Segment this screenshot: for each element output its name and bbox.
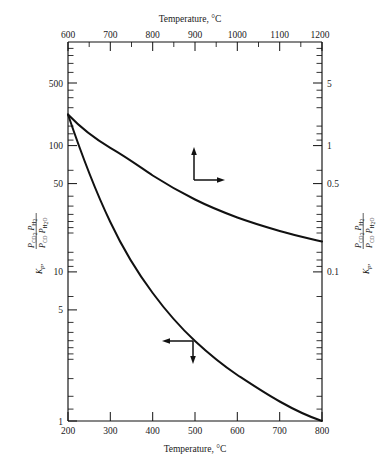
right-tick-label-0.1: 0.1 (327, 267, 339, 277)
bottom-axis-ticks (68, 412, 322, 421)
right-axis-kp-symbol: Kp, (362, 264, 372, 275)
curve-high-temperature-branch (68, 115, 322, 242)
right-tick-label-5: 5 (327, 79, 332, 89)
curve-low-temperature-branch (68, 115, 322, 422)
chart-container: Temperature, °C Temperature, °C 600 700 … (0, 0, 380, 463)
arrow-left-icon (162, 338, 170, 344)
left-axis-kp-symbol: Kp, (35, 264, 45, 275)
left-axis-numerator: PCO2 PH2 (27, 219, 38, 249)
left-tick-label-50: 50 (54, 179, 64, 189)
bottom-tick-label-600: 600 (230, 426, 245, 436)
left-axis-title: Kp, PCO2 PH2 PCO PH2O (27, 213, 49, 275)
bottom-tick-label-700: 700 (273, 426, 288, 436)
top-axis-title: Temperature, °C (159, 14, 222, 24)
right-tick-label-1: 1 (327, 141, 332, 151)
left-axis-ticks (68, 48, 77, 421)
top-tick-label-1200: 1200 (311, 30, 330, 40)
right-tick-label-0.5: 0.5 (327, 179, 339, 189)
chart-svg: Temperature, °C Temperature, °C 600 700 … (0, 0, 380, 463)
bottom-tick-label-400: 400 (146, 426, 161, 436)
upper-curve-axis-pointer (191, 147, 225, 183)
right-axis-ticks (313, 48, 322, 409)
bottom-tick-label-500: 500 (188, 426, 203, 436)
left-axis-tick-labels: 500 100 50 10 5 1 (49, 79, 64, 427)
top-tick-label-700: 700 (103, 30, 118, 40)
bottom-tick-label-300: 300 (103, 426, 118, 436)
lower-curve-axis-pointer (162, 338, 196, 364)
bottom-axis-title: Temperature, °C (164, 444, 227, 454)
left-tick-label-100: 100 (49, 141, 64, 151)
right-axis-title: Kp, PCO2 PH2 PCO PH2O (354, 213, 376, 275)
top-tick-label-800: 800 (146, 30, 161, 40)
top-axis-tick-labels: 600 700 800 900 1000 1100 1200 (61, 30, 330, 40)
top-tick-label-900: 900 (188, 30, 203, 40)
left-tick-label-10: 10 (54, 267, 64, 277)
bottom-tick-label-800: 800 (315, 426, 330, 436)
arrow-right-icon (217, 177, 225, 183)
arrow-down-icon (190, 356, 196, 364)
top-axis-ticks (68, 42, 322, 51)
left-axis-denominator: PCO PH2O (38, 218, 49, 249)
left-tick-label-1: 1 (58, 417, 63, 427)
left-tick-label-5: 5 (58, 305, 63, 315)
right-axis-numerator: PCO2 PH2 (354, 219, 365, 249)
bottom-axis-tick-labels: 200 300 400 500 600 700 800 (61, 426, 330, 436)
left-tick-label-500: 500 (49, 79, 64, 89)
top-tick-label-1100: 1100 (270, 30, 289, 40)
arrow-up-icon (191, 147, 197, 155)
top-tick-label-1000: 1000 (228, 30, 247, 40)
bottom-tick-label-200: 200 (61, 426, 76, 436)
right-axis-denominator: PCO PH2O (365, 218, 376, 249)
top-tick-label-600: 600 (61, 30, 76, 40)
right-axis-tick-labels: 5 1 0.5 0.1 (327, 79, 339, 278)
